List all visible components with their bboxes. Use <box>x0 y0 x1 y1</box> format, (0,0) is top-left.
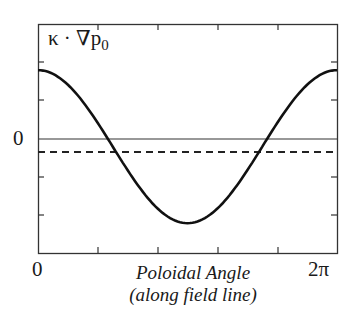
y-axis-label-main: κ · ∇p <box>48 26 101 50</box>
y-axis-label: κ · ∇p0 <box>48 26 109 54</box>
data-curve <box>38 70 337 223</box>
y-axis-label-subscript: 0 <box>101 37 109 53</box>
y-tick-zero: 0 <box>13 126 24 151</box>
x-axis-label-line2: (along field line) <box>15 284 356 306</box>
x-axis-label-line1: Poloidal Angle <box>15 262 356 284</box>
